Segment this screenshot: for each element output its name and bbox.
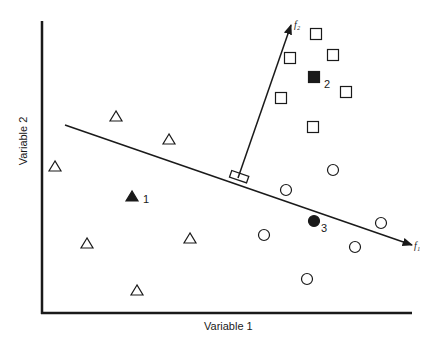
y-axis-label: Variable 2 (17, 106, 29, 176)
triangle-marker-icon (81, 238, 93, 248)
f1-label: f₁ (414, 240, 420, 251)
circle-marker-icon (259, 230, 270, 241)
f1-axis-line (65, 125, 412, 245)
point-label-3: 3 (321, 222, 327, 234)
filled-triangle-marker-icon (126, 191, 138, 201)
square-marker-icon (311, 29, 322, 40)
square-marker-icon (285, 53, 296, 64)
f2-axis-line (238, 25, 291, 178)
discriminant-diagram (0, 0, 446, 340)
x-axis-label: Variable 1 (204, 320, 253, 332)
filled-square-marker-icon (309, 72, 320, 83)
f2-label: f₂ (294, 19, 300, 30)
square-marker-icon (308, 122, 319, 133)
data-points (49, 29, 387, 296)
circle-marker-icon (328, 165, 339, 176)
point-label-1: 1 (143, 193, 149, 205)
square-marker-icon (276, 93, 287, 104)
circle-marker-icon (302, 274, 313, 285)
triangle-marker-icon (131, 285, 143, 295)
point-label-2: 2 (324, 78, 330, 90)
circle-marker-icon (350, 242, 361, 253)
square-marker-icon (341, 87, 352, 98)
triangle-marker-icon (184, 233, 196, 243)
square-marker-icon (328, 50, 339, 61)
filled-circle-marker-icon (309, 216, 320, 227)
triangle-marker-icon (110, 111, 122, 121)
circle-marker-icon (281, 185, 292, 196)
triangle-marker-icon (163, 134, 175, 144)
circle-marker-icon (376, 218, 387, 229)
triangle-marker-icon (49, 161, 61, 171)
